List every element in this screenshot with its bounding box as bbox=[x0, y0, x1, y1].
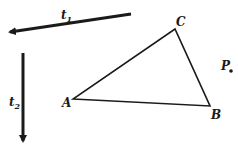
vector-t1: t1 bbox=[10, 8, 131, 32]
vector-t2: t2 bbox=[9, 53, 23, 141]
triangle-shape bbox=[73, 29, 210, 106]
triangle-abc: A B C bbox=[61, 15, 221, 122]
vertex-b-label: B bbox=[210, 108, 221, 122]
vector-t2-label: t2 bbox=[9, 95, 21, 111]
vector-t1-label: t1 bbox=[61, 8, 72, 24]
vertex-a-label: A bbox=[61, 96, 71, 110]
translation-diagram: t1 t2 A B C P bbox=[0, 0, 238, 153]
point-p-dot bbox=[229, 69, 233, 73]
point-p: P bbox=[220, 59, 233, 73]
vertex-c-label: C bbox=[176, 15, 186, 29]
